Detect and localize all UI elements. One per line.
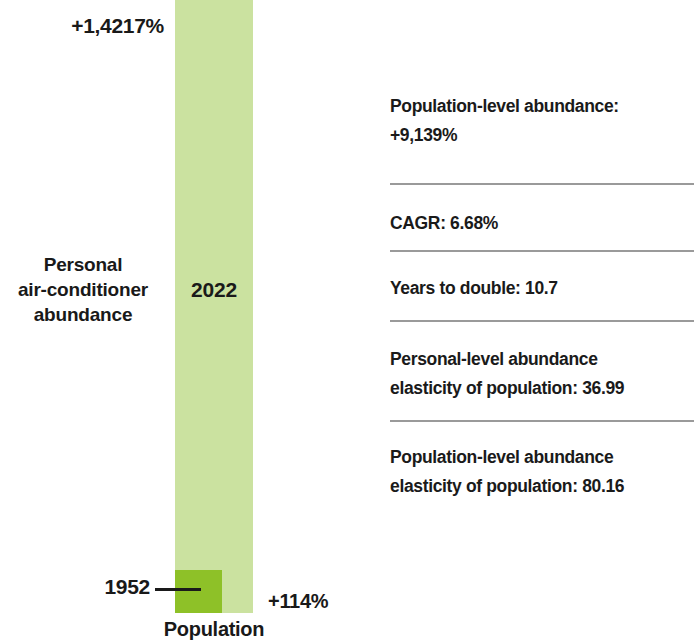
stat-line: Population-level abundance: bbox=[390, 92, 694, 121]
stat-row: CAGR: 6.68% bbox=[390, 209, 694, 238]
axis-label: Population bbox=[150, 618, 278, 641]
top-value-label: +1,4217% bbox=[0, 14, 164, 38]
stat-row: Personal-level abundance elasticity of p… bbox=[390, 345, 694, 403]
stat-divider bbox=[390, 320, 694, 322]
leader-line-1952 bbox=[155, 588, 201, 591]
stat-line: CAGR: 6.68% bbox=[390, 209, 694, 238]
stat-line: Population-level abundance bbox=[390, 443, 694, 472]
stat-line: Years to double: 10.7 bbox=[390, 274, 694, 303]
bar-2022 bbox=[175, 0, 253, 613]
bar-2022-year-label: 2022 bbox=[175, 278, 253, 302]
stats-panel: Population-level abundance: +9,139% CAGR… bbox=[390, 0, 694, 643]
stat-divider bbox=[390, 250, 694, 252]
series-label: Personal air-conditioner abundance bbox=[8, 252, 158, 327]
stat-line: +9,139% bbox=[390, 121, 694, 150]
series-label-line-1: Personal bbox=[8, 252, 158, 277]
stat-row: Population-level abundance: +9,139% bbox=[390, 92, 694, 150]
bar-1952 bbox=[175, 570, 222, 613]
stat-divider bbox=[390, 183, 694, 185]
series-label-line-3: abundance bbox=[8, 302, 158, 327]
stat-line: elasticity of population: 36.99 bbox=[390, 374, 694, 403]
stat-line: elasticity of population: 80.16 bbox=[390, 472, 694, 501]
stat-row: Years to double: 10.7 bbox=[390, 274, 694, 303]
abundance-bar-chart: 2022 +1,4217% Personal air-conditioner a… bbox=[0, 0, 380, 643]
stat-row: Population-level abundance elasticity of… bbox=[390, 443, 694, 501]
series-label-line-2: air-conditioner bbox=[8, 277, 158, 302]
stat-line: Personal-level abundance bbox=[390, 345, 694, 374]
bottom-value-label: +114% bbox=[268, 590, 328, 613]
stat-divider bbox=[390, 420, 694, 422]
bar-1952-year-label: 1952 bbox=[40, 575, 150, 599]
